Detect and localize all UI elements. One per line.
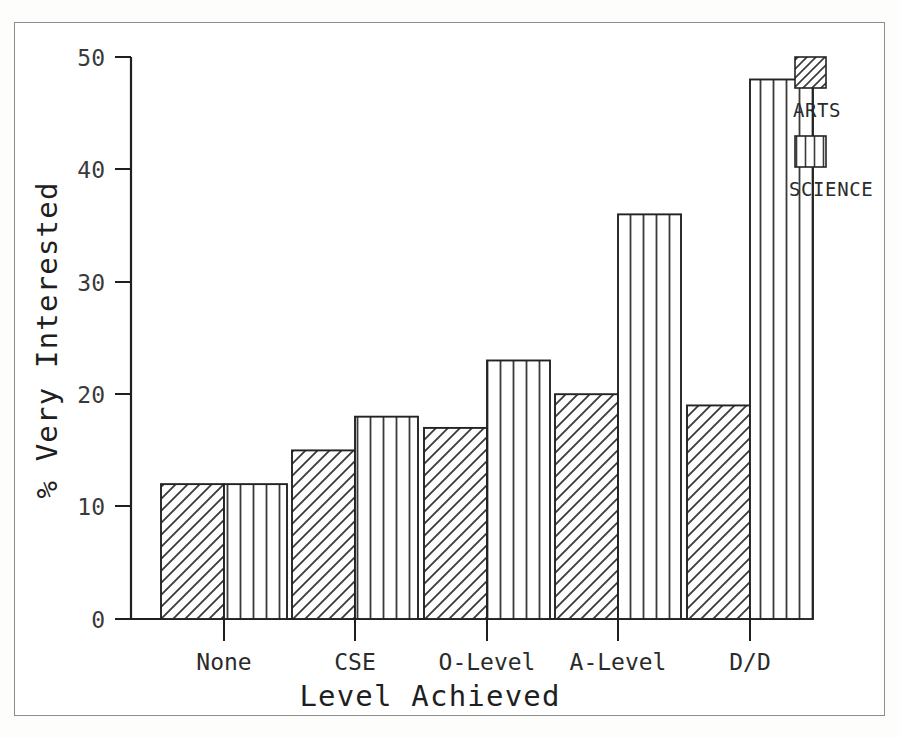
bar-arts-d-d [687,405,750,619]
bar-arts-cse [292,450,355,619]
bar-science-a-level [618,214,681,619]
y-tick-label-50: 50 [77,45,105,71]
bars-group [161,79,813,619]
y-axis: 50 40 30 20 10 0 % Very Interested [30,45,131,633]
scanned-figure-page: 50 40 30 20 10 0 % Very Interested None … [0,0,900,738]
bar-science-o-level [487,360,550,619]
y-tick-label-30: 30 [77,270,105,296]
y-tick-label-10: 10 [77,494,105,520]
x-axis-title: Level Achieved [299,679,560,713]
x-tick-label-a-level: A-Level [570,649,667,675]
legend-label-arts: ARTS [793,99,841,121]
x-tick-label-o-level: O-Level [439,649,536,675]
bar-arts-none [161,484,224,619]
legend-swatch-arts-icon [795,57,826,88]
bar-arts-a-level [555,394,618,619]
bar-chart-figure: 50 40 30 20 10 0 % Very Interested None … [0,0,900,738]
y-tick-label-40: 40 [77,157,105,183]
x-tick-label-d-d: D/D [729,649,771,675]
bar-science-none [224,484,287,619]
bar-arts-o-level [424,428,487,619]
x-tick-label-cse: CSE [334,649,376,675]
bar-chart-svg: 50 40 30 20 10 0 % Very Interested None … [0,0,900,738]
y-tick-label-20: 20 [77,382,105,408]
x-tick-label-none: None [196,649,251,675]
x-axis: None CSE O-Level A-Level D/D Level Achie… [131,619,800,713]
y-axis-title: % Very Interested [30,181,64,498]
legend-label-science: SCIENCE [789,178,873,200]
legend-swatch-science-icon [795,136,826,167]
bar-science-cse [355,417,418,619]
y-tick-label-0: 0 [91,607,105,633]
